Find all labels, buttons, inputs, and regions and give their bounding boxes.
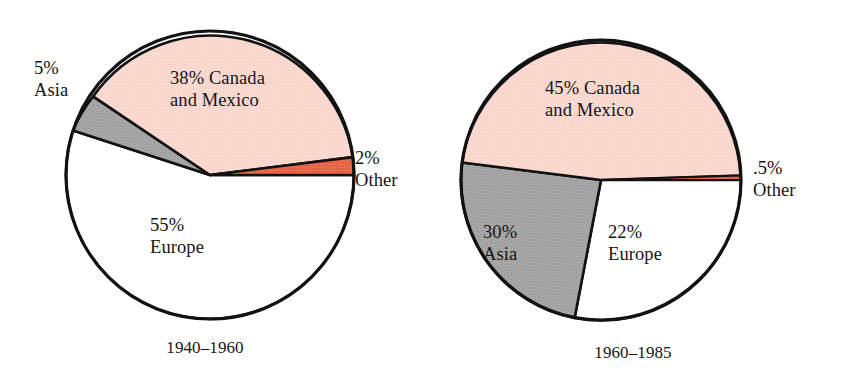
- slice-label-europe: 55%Europe: [150, 215, 204, 259]
- slice-label-other: .5%Other: [753, 158, 796, 202]
- slice-label-europe-line1: 55%: [150, 215, 184, 235]
- slice-label-europe-line1: 22%: [608, 222, 642, 242]
- slice-label-other-line1: 2%: [355, 148, 380, 168]
- slice-label-canada-mexico-line1: 38% Canada: [170, 68, 265, 88]
- slice-label-other-line2: Other: [753, 180, 796, 200]
- slice-label-asia: 30%Asia: [483, 222, 517, 266]
- pie-chart-figure: 38% Canadaand Mexico 5%Asia 2%Other 55%E…: [0, 0, 845, 390]
- slice-label-asia-line2: Asia: [483, 244, 517, 264]
- chart-panel-1940-1960: 38% Canadaand Mexico 5%Asia 2%Other 55%E…: [0, 0, 422, 390]
- slice-label-canada-mexico-line1: 45% Canada: [545, 78, 640, 98]
- chart-caption-1960-1985: 1960–1985: [533, 343, 733, 363]
- slice-label-asia-line1: 30%: [483, 222, 517, 242]
- slice-label-canada-mexico-line2: and Mexico: [545, 100, 634, 120]
- slice-label-europe-line2: Europe: [150, 237, 204, 257]
- pie-slice-asia: [461, 163, 601, 319]
- slice-label-asia: 5%Asia: [34, 58, 68, 102]
- slice-label-other-line1: .5%: [753, 158, 783, 178]
- slice-label-asia-line2: Asia: [34, 80, 68, 100]
- chart-caption-1940-1960: 1940–1960: [105, 338, 305, 358]
- slice-label-other-line2: Other: [355, 170, 398, 190]
- slice-label-asia-line1: 5%: [34, 58, 59, 78]
- slice-label-canada-mexico-line2: and Mexico: [170, 90, 259, 110]
- slice-label-europe: 22%Europe: [608, 222, 662, 266]
- slice-label-other: 2%Other: [355, 148, 398, 192]
- chart-panel-1960-1985: 45% Canadaand Mexico 30%Asia 22%Europe .…: [423, 0, 845, 390]
- slice-label-canada-mexico: 45% Canadaand Mexico: [545, 78, 640, 122]
- slice-label-canada-mexico: 38% Canadaand Mexico: [170, 68, 265, 112]
- slice-label-europe-line2: Europe: [608, 244, 662, 264]
